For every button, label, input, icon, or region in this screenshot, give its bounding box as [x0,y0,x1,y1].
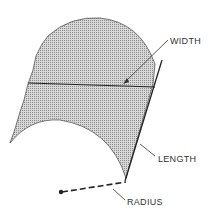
diagram-canvas: WIDTH LENGTH RADIUS [0,0,211,214]
width-label: WIDTH [170,36,201,46]
radius-center-dot [59,190,63,194]
curved-surface-figure [0,0,211,214]
radius-label: RADIUS [127,197,163,207]
radius-line [62,182,126,192]
radius-leader [113,189,125,200]
length-leader [140,144,155,156]
length-label: LENGTH [158,154,196,164]
